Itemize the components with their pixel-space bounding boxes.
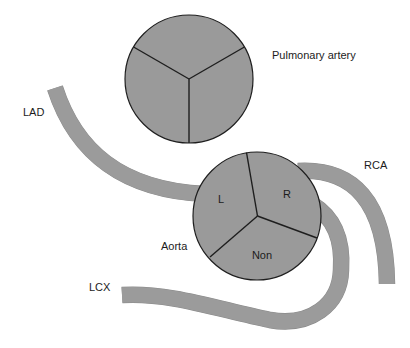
label-pulmonary-artery: Pulmonary artery <box>272 49 356 61</box>
label-lcx: LCX <box>89 281 111 293</box>
label-rca: RCA <box>364 159 388 171</box>
cusp-label-non-coronary: Non <box>252 249 272 261</box>
label-lad: LAD <box>23 106 44 118</box>
pulmonary-valve <box>125 15 253 143</box>
cusp-label-right: R <box>283 188 291 200</box>
aortic-valve: L R Non <box>193 152 321 280</box>
coronary-anatomy-diagram: L R Non Pulmonary artery LAD RCA Aorta L… <box>0 0 410 348</box>
label-aorta: Aorta <box>161 240 188 252</box>
cusp-label-left: L <box>218 193 224 205</box>
